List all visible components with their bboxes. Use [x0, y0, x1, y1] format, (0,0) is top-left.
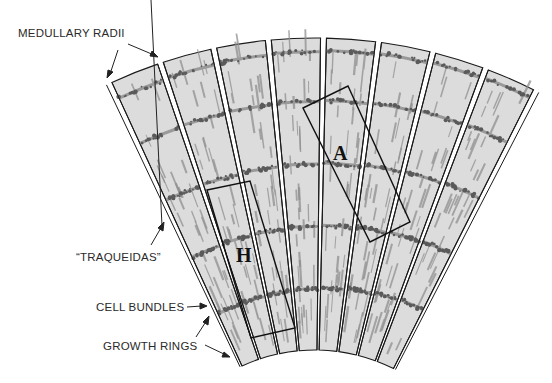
label-growth-rings: GROWTH RINGS [103, 340, 197, 352]
arrow-head-icon [158, 222, 164, 231]
arrow-medullary-radii-right [128, 44, 154, 55]
wood-fan-diagram: A H [0, 0, 552, 383]
arrow-head-icon [222, 352, 230, 357]
label-traqueidas: “TRAQUEIDAS” [76, 251, 161, 263]
arrow-growth-rings-down [205, 345, 226, 355]
arrow-head-icon [203, 316, 209, 325]
arrow-head-icon [200, 303, 207, 309]
region-label-a: A [333, 142, 348, 164]
region-label-h: H [236, 244, 252, 266]
label-medullary-radii: MEDULLARY RADII [18, 27, 125, 39]
label-cell-bundles: CELL BUNDLES [96, 301, 184, 313]
arrow-head-icon [107, 70, 113, 78]
arrow-medullary-radii-left [110, 50, 118, 74]
